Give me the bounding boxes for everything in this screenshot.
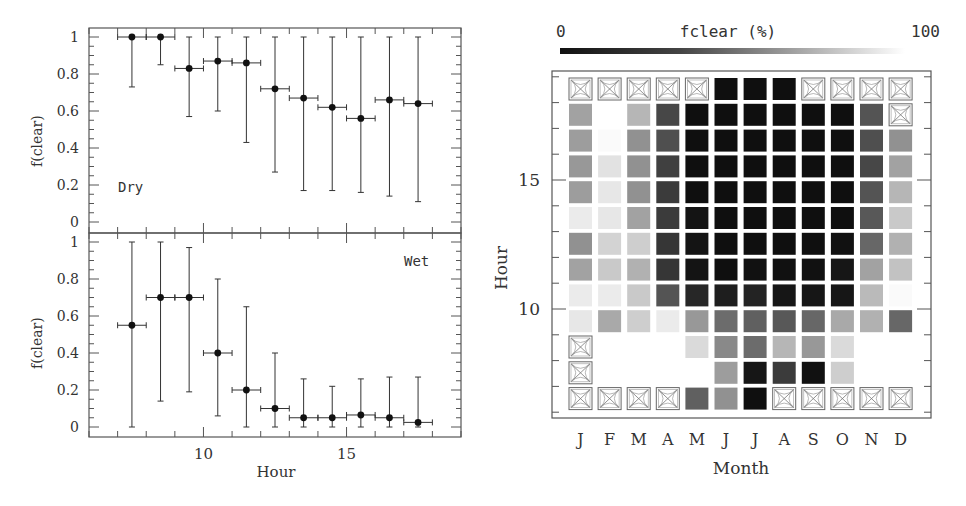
value-box xyxy=(802,336,825,358)
heatmap-cell xyxy=(860,104,883,126)
data-marker xyxy=(186,294,193,301)
value-box xyxy=(860,362,883,384)
heatmap-cell xyxy=(744,259,767,281)
figure: 00.20.40.60.81 00.20.40.60.811015 Dry We… xyxy=(0,0,966,506)
heatmap-cell xyxy=(685,130,708,152)
data-marker xyxy=(243,387,250,394)
heatmap-cell xyxy=(744,104,767,126)
heatmap-cell xyxy=(860,259,883,281)
heatmap-cell xyxy=(744,130,767,152)
heatmap-cell xyxy=(685,207,708,229)
value-box xyxy=(802,181,825,203)
value-box xyxy=(656,336,679,358)
colorbar xyxy=(560,48,905,54)
wet-axis-ticks: 00.20.40.60.811015 xyxy=(57,233,461,463)
data-point xyxy=(404,377,433,427)
value-box xyxy=(598,181,621,203)
heatmap-cell xyxy=(715,362,738,384)
data-marker xyxy=(329,414,336,421)
value-box xyxy=(889,259,912,281)
heatmap-cell xyxy=(685,336,708,358)
wet-annotation: Wet xyxy=(404,253,429,269)
value-box xyxy=(802,155,825,177)
heatmap-cell xyxy=(569,259,592,281)
month-label: S xyxy=(808,430,819,449)
value-box xyxy=(685,233,708,255)
heatmap-cell xyxy=(744,181,767,203)
data-marker xyxy=(386,414,393,421)
heatmap-cell xyxy=(889,181,912,203)
month-label: N xyxy=(865,430,879,449)
heatmap-cell xyxy=(627,155,650,177)
value-box xyxy=(744,181,767,203)
heatmap-cell xyxy=(685,181,708,203)
data-marker xyxy=(157,34,164,41)
data-point xyxy=(261,37,290,172)
data-point xyxy=(347,37,376,192)
value-box xyxy=(744,362,767,384)
heatmap-cell xyxy=(744,155,767,177)
value-box xyxy=(685,310,708,332)
heatmap-cell xyxy=(831,336,854,358)
heatmap-cell xyxy=(860,155,883,177)
data-point xyxy=(175,248,204,392)
value-box xyxy=(889,155,912,177)
heatmap-cell xyxy=(860,284,883,306)
value-box xyxy=(685,155,708,177)
value-box xyxy=(889,233,912,255)
data-marker xyxy=(357,115,364,122)
heatmap-cell xyxy=(656,284,679,306)
y-tick-label: 0 xyxy=(70,214,79,230)
month-tick-labels: JFMAMJJASOND xyxy=(575,430,907,449)
value-box xyxy=(715,207,738,229)
heatmap-cell xyxy=(715,284,738,306)
value-box xyxy=(744,284,767,306)
heatmap-cell xyxy=(802,310,825,332)
value-box xyxy=(598,155,621,177)
value-box xyxy=(773,284,796,306)
heatmap-cell xyxy=(715,310,738,332)
value-box xyxy=(656,310,679,332)
heatmap-cell xyxy=(569,284,592,306)
value-box xyxy=(860,310,883,332)
value-box xyxy=(831,207,854,229)
dry-data-points xyxy=(118,34,433,202)
month-label: A xyxy=(777,430,790,449)
heatmap-cell xyxy=(889,207,912,229)
value-box xyxy=(889,130,912,152)
heatmap-cell xyxy=(598,362,621,384)
heatmap-cell xyxy=(715,155,738,177)
heatmap-cell xyxy=(569,233,592,255)
heatmap-cell xyxy=(744,388,767,410)
value-box xyxy=(744,233,767,255)
value-box xyxy=(773,207,796,229)
heatmap-cell xyxy=(569,181,592,203)
heatmap-cell xyxy=(715,181,738,203)
value-box xyxy=(685,388,708,410)
heatmap-cell xyxy=(802,284,825,306)
heatmap-cell xyxy=(860,130,883,152)
value-box xyxy=(569,155,592,177)
heatmap-cell-no-data xyxy=(773,388,796,410)
month-label: O xyxy=(836,430,849,449)
value-box xyxy=(715,155,738,177)
value-box xyxy=(831,155,854,177)
value-box xyxy=(802,207,825,229)
heatmap-cell xyxy=(773,259,796,281)
value-box xyxy=(715,104,738,126)
dry-axis-ticks: 00.20.40.60.81 xyxy=(57,28,461,233)
value-box xyxy=(831,181,854,203)
heatmap-cell xyxy=(744,310,767,332)
value-box xyxy=(656,362,679,384)
month-label: J xyxy=(575,430,583,449)
value-box xyxy=(598,207,621,229)
heatmap-cell xyxy=(656,130,679,152)
heatmap-cell-no-data xyxy=(598,388,621,410)
heatmap-cell-no-data xyxy=(889,78,912,100)
heatmap-cell-no-data xyxy=(831,388,854,410)
heatmap-cell xyxy=(889,233,912,255)
value-box xyxy=(569,284,592,306)
heatmap-cell xyxy=(802,233,825,255)
heatmap-cell xyxy=(685,284,708,306)
heatmap-cell xyxy=(889,155,912,177)
